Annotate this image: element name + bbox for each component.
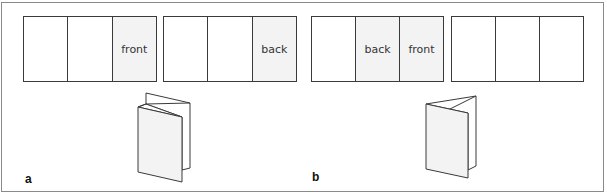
accordion-fold-icon bbox=[138, 93, 190, 182]
folded-leaflet-illustrations bbox=[0, 0, 607, 196]
subfigure-label-b: b bbox=[312, 170, 319, 184]
roll-fold-icon bbox=[426, 96, 476, 178]
subfigure-label-a: a bbox=[25, 172, 32, 186]
